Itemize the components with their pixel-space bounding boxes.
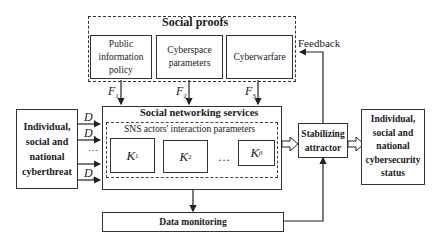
- param-k2-box: K2: [163, 140, 208, 173]
- sns-title: Social networking services: [140, 107, 258, 118]
- social-proofs-title: Social proofs: [162, 15, 228, 30]
- cyberwarfare-box: Cyberwarfare: [226, 35, 293, 79]
- param-ellipsis: …: [218, 150, 230, 165]
- feedback-label: Feedback: [298, 37, 340, 49]
- flow-f3-label: F3: [245, 84, 256, 100]
- input-ellipsis: …: [88, 142, 98, 153]
- flow-f2-label: F2: [176, 84, 187, 100]
- input-d2-label: D2: [84, 126, 96, 142]
- sns-inner-title: SNS actors' interaction parameters: [124, 124, 255, 134]
- data-monitoring-box: Data monitoring: [102, 212, 284, 232]
- public-information-policy-box: Public information policy: [90, 35, 152, 79]
- input-d1-label: D1: [84, 110, 96, 126]
- param-k1-box: K1: [110, 138, 155, 173]
- flow-f1-label: F1: [108, 84, 119, 100]
- param-kbeta-box: Kβ: [238, 140, 275, 166]
- stabilizing-attractor-box: Stabilizingattractor: [298, 123, 348, 158]
- cybersecurity-status-box: Individual,social andnationalcybersecuri…: [361, 109, 425, 185]
- cyberthreat-box: Individual,social andnationalcyberthreat: [16, 109, 78, 189]
- cyberspace-parameters-box: Cyberspace parameters: [156, 35, 223, 79]
- input-dalpha-label: Dα: [84, 166, 96, 182]
